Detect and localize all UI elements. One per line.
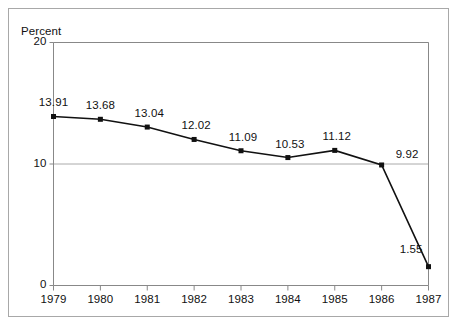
data-point-marker: [285, 155, 290, 160]
x-tick-label: 1980: [75, 293, 125, 305]
data-point-label: 9.92: [396, 148, 419, 160]
x-tick-label: 1982: [169, 293, 219, 305]
data-point-label: 1.55: [373, 243, 423, 255]
data-point-marker: [239, 148, 244, 153]
x-tick-label: 1985: [310, 293, 360, 305]
data-point-marker: [98, 117, 103, 122]
chart-figure: Percent 01020 19791980198119821983198419…: [0, 0, 460, 327]
data-point-label: 10.53: [265, 138, 315, 150]
data-point-label: 11.12: [312, 130, 362, 142]
data-point-label: 13.04: [124, 107, 174, 119]
y-tick-label: 10: [0, 157, 47, 169]
data-point-marker: [426, 264, 431, 269]
data-point-marker: [332, 148, 337, 153]
data-point-marker: [379, 162, 384, 167]
y-tick-label: 0: [0, 278, 47, 290]
x-axis-ticks: [54, 286, 429, 291]
x-tick-label: 1986: [357, 293, 407, 305]
data-point-label: 13.68: [75, 99, 125, 111]
y-tick-label: 20: [0, 35, 47, 47]
line-chart-plot: [0, 0, 460, 327]
data-point-label: 11.09: [218, 131, 268, 143]
data-point-label: 12.02: [171, 119, 221, 131]
x-tick-label: 1981: [122, 293, 172, 305]
data-point-marker: [192, 137, 197, 142]
data-point-marker: [51, 114, 56, 119]
data-point-label: 13.91: [29, 96, 79, 108]
x-tick-label: 1979: [29, 293, 79, 305]
data-point-marker: [145, 125, 150, 130]
x-tick-label: 1984: [263, 293, 313, 305]
x-tick-label: 1983: [216, 293, 266, 305]
x-tick-label: 1987: [404, 293, 454, 305]
